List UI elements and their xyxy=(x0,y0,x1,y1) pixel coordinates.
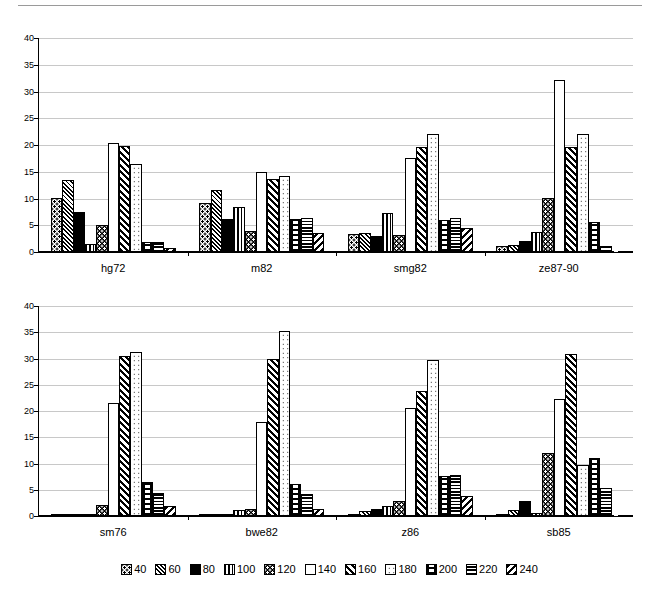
bar-60 xyxy=(508,245,520,252)
legend-label: 240 xyxy=(519,563,537,575)
bar-group: z86 xyxy=(336,306,485,516)
plot-area-bottom: sm76bwe82z86sb85 xyxy=(38,306,633,517)
bar-160 xyxy=(416,147,427,252)
bar-40 xyxy=(496,514,508,516)
legend-label: 140 xyxy=(318,563,336,575)
bar-100 xyxy=(233,207,244,252)
bar-160 xyxy=(565,354,577,516)
legend-swatch-icon xyxy=(190,564,201,575)
bar-220 xyxy=(450,218,461,252)
bar-120 xyxy=(245,231,256,252)
y-axis-tick-mark xyxy=(34,411,38,412)
bar-200 xyxy=(439,220,450,252)
bar-220 xyxy=(301,494,312,516)
y-axis-tick-mark xyxy=(34,252,38,253)
bar-240 xyxy=(164,248,175,252)
y-axis-tick-mark xyxy=(34,437,38,438)
bar-40 xyxy=(199,203,210,252)
bar-200 xyxy=(290,484,301,516)
legend-item-120: 120 xyxy=(264,563,295,575)
bar-240 xyxy=(612,251,622,252)
y-axis-tick-mark xyxy=(34,464,38,465)
bar-cluster xyxy=(51,306,176,516)
chart-panel-bottom: 0510152025303540 sm76bwe82z86sb85 xyxy=(0,296,659,558)
category-label: smg82 xyxy=(336,262,485,274)
bar-200 xyxy=(290,219,301,252)
legend-label: 160 xyxy=(358,563,376,575)
bar-80 xyxy=(519,241,531,252)
legend-swatch-icon xyxy=(224,564,235,575)
y-axis-tick-label: 35 xyxy=(24,328,34,337)
bar-60 xyxy=(359,511,370,516)
bar-60 xyxy=(62,180,73,252)
y-axis-tick-label: 40 xyxy=(24,34,34,43)
legend-item-40: 40 xyxy=(121,563,146,575)
y-axis-tick-label: 10 xyxy=(24,194,34,203)
bar-220 xyxy=(450,475,461,516)
bar-160 xyxy=(119,146,130,252)
y-axis-labels-bottom: 0510152025303540 xyxy=(0,296,38,558)
y-axis-tick-mark xyxy=(34,225,38,226)
category-label: ze87-90 xyxy=(485,262,634,274)
legend-swatch-icon xyxy=(385,564,396,575)
bar-160 xyxy=(267,179,278,252)
y-axis-tick-mark xyxy=(34,118,38,119)
bar-240 xyxy=(461,496,472,516)
bar-80 xyxy=(74,514,85,516)
bar-60 xyxy=(359,233,370,252)
legend-swatch-icon xyxy=(345,564,356,575)
bar-200 xyxy=(589,458,601,516)
bar-group: sm76 xyxy=(39,306,188,516)
top-divider-rule xyxy=(18,5,642,6)
plot-wrapper-top: 0510152025303540 hg72m82smg82ze87-90 xyxy=(0,28,659,296)
bar-220 xyxy=(600,488,612,516)
bar-40 xyxy=(51,514,62,516)
legend-item-240: 240 xyxy=(506,563,537,575)
category-label: z86 xyxy=(336,526,485,538)
bar-240 xyxy=(164,506,175,517)
bar-groups: hg72m82smg82ze87-90 xyxy=(39,38,633,252)
bar-cluster xyxy=(348,306,473,516)
category-label: sb85 xyxy=(485,526,634,538)
y-axis-tick-label: 10 xyxy=(24,459,34,468)
y-axis-tick-mark xyxy=(34,172,38,173)
legend-swatch-icon xyxy=(155,564,166,575)
category-label: hg72 xyxy=(39,262,188,274)
bar-100 xyxy=(382,506,393,517)
bar-160 xyxy=(416,391,427,516)
category-label: sm76 xyxy=(39,526,188,538)
y-axis-tick-label: 30 xyxy=(24,354,34,363)
legend-item-180: 180 xyxy=(385,563,416,575)
legend-swatch-icon xyxy=(466,564,477,575)
legend-label: 120 xyxy=(277,563,295,575)
y-axis-tick-label: 25 xyxy=(24,114,34,123)
legend-label: 100 xyxy=(237,563,255,575)
bar-cluster xyxy=(51,38,176,252)
legend-label: 180 xyxy=(398,563,416,575)
bar-180 xyxy=(279,331,290,516)
bar-80 xyxy=(222,219,233,252)
category-tick xyxy=(188,515,189,520)
bar-200 xyxy=(142,242,153,252)
bar-groups: sm76bwe82z86sb85 xyxy=(39,306,633,516)
bar-160 xyxy=(267,359,278,517)
bar-200 xyxy=(142,482,153,516)
bar-240 xyxy=(313,509,324,516)
legend-label: 80 xyxy=(203,563,215,575)
category-tick xyxy=(188,251,189,256)
y-axis-tick-mark xyxy=(34,38,38,39)
y-axis-labels-top: 0510152025303540 xyxy=(0,28,38,296)
category-label: m82 xyxy=(188,262,337,274)
bar-cluster xyxy=(199,306,324,516)
legend-item-80: 80 xyxy=(190,563,215,575)
bar-200 xyxy=(589,222,601,252)
bar-180 xyxy=(427,360,438,516)
legend-label: 40 xyxy=(134,563,146,575)
bar-120 xyxy=(542,453,554,516)
bar-240 xyxy=(313,233,324,252)
legend-item-160: 160 xyxy=(345,563,376,575)
bar-140 xyxy=(554,399,566,516)
bar-220 xyxy=(153,493,164,516)
chart-page: 0510152025303540 hg72m82smg82ze87-90 051… xyxy=(0,0,659,599)
legend-item-140: 140 xyxy=(305,563,336,575)
